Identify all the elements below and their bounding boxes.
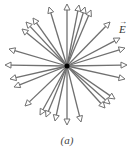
arrowhead-icon	[118, 75, 125, 81]
vector-arrow-icon: →	[119, 18, 127, 26]
arrowhead-icon	[64, 4, 70, 10]
arrowhead-icon	[64, 119, 70, 125]
electric-field-diagram	[0, 0, 134, 150]
arrowhead-icon	[48, 7, 54, 14]
arrowhead-icon	[86, 10, 92, 17]
field-line	[43, 66, 67, 110]
point-charge	[65, 64, 70, 69]
arrowhead-icon	[77, 115, 83, 122]
field-vector-label: → E	[119, 24, 126, 35]
field-line	[67, 66, 106, 100]
arrowhead-icon	[113, 38, 120, 43]
arrowhead-icon	[108, 93, 115, 99]
field-line	[67, 11, 78, 66]
arrowhead-icon	[80, 7, 86, 14]
arrowhead-icon	[5, 62, 11, 68]
arrowhead-icon	[121, 62, 127, 68]
field-line	[11, 65, 67, 66]
arrowhead-icon	[53, 114, 59, 121]
field-line	[29, 66, 67, 102]
field-line	[67, 16, 89, 66]
field-line	[67, 65, 121, 66]
field-line	[56, 66, 67, 115]
figure-caption: (a)	[0, 134, 134, 146]
arrowhead-icon	[33, 18, 39, 25]
arrowhead-icon	[14, 82, 21, 88]
arrowhead-icon	[10, 75, 17, 81]
arrowhead-icon	[40, 108, 46, 115]
arrowhead-icon	[9, 48, 16, 54]
arrowhead-icon	[118, 47, 125, 53]
arrowhead-icon	[46, 110, 52, 117]
arrowhead-icon	[75, 5, 81, 11]
